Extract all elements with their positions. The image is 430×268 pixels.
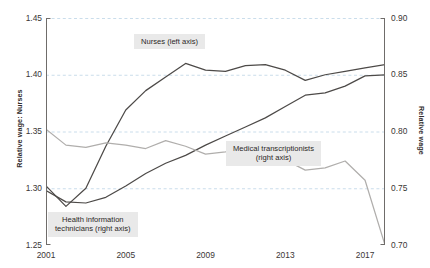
clipped-title-remnant [0, 0, 430, 7]
x-tick-2001: 2001 [23, 250, 69, 260]
series-line-1 [46, 75, 385, 203]
x-tick-2017: 2017 [342, 250, 388, 260]
x-tick-2013: 2013 [262, 250, 308, 260]
annotation-health-information-technicians: Health information technicians (right ax… [48, 212, 138, 237]
chart-figure: Relative wage: Nurses Relative wage Nurs… [0, 0, 430, 268]
annotation-medical-transcriptionists: Medical transcriptionists (right axis) [226, 141, 321, 166]
x-tick-2009: 2009 [183, 250, 229, 260]
annotation-nurses: Nurses (left axis) [134, 34, 205, 49]
y-tick-left-1.35: 1.35 [12, 126, 42, 136]
y-tick-left-1.40: 1.40 [12, 69, 42, 79]
y-tick-right-0.80: 0.80 [391, 126, 425, 136]
y-tick-right-0.90: 0.90 [391, 13, 425, 23]
plot-area [46, 18, 385, 245]
series-line-0 [46, 63, 385, 206]
y-tick-right-0.85: 0.85 [391, 69, 425, 79]
y-tick-left-1.45: 1.45 [12, 13, 42, 23]
chart-canvas [46, 18, 385, 245]
y-tick-right-0.70: 0.70 [391, 240, 425, 250]
y-tick-left-1.25: 1.25 [12, 240, 42, 250]
y-tick-right-0.75: 0.75 [391, 183, 425, 193]
y-tick-left-1.30: 1.30 [12, 183, 42, 193]
x-tick-2005: 2005 [103, 250, 149, 260]
